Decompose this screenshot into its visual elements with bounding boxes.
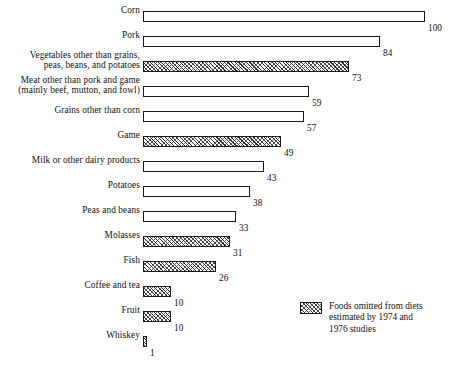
table-row: Pork 84 [0, 25, 455, 50]
bar-coffee-and-tea [143, 286, 171, 297]
bar-corn [143, 11, 425, 22]
bar-potatoes [143, 186, 250, 197]
bar-label: Milk or other dairy products [0, 155, 140, 165]
table-row: Vegetables other than grains, peas, bean… [0, 50, 455, 75]
legend-label: Foods omitted from diets estimated by 19… [329, 301, 449, 335]
bar-fish [143, 261, 216, 272]
bar-vegetables [143, 61, 349, 72]
bar-label: Fruit [0, 305, 140, 315]
table-row: Coffee and tea 10 [0, 275, 455, 300]
table-row: Grains other than corn 57 [0, 100, 455, 125]
bar-label: Game [0, 130, 140, 140]
bar-label: Molasses [0, 230, 140, 240]
bar-label: Meat other than pork and game (mainly be… [0, 75, 140, 96]
table-row: Game 49 [0, 125, 455, 150]
bar-grains [143, 111, 304, 122]
bar-label: Pork [0, 30, 140, 40]
bar-label: Vegetables other than grains, peas, bean… [0, 50, 140, 71]
bar-label: Corn [0, 5, 140, 15]
bar-whiskey [143, 336, 147, 347]
bar-fruit [143, 311, 171, 322]
bar-value-whiskey: 1 [150, 348, 155, 358]
table-row: Fish 26 [0, 250, 455, 275]
bar-label: Fish [0, 255, 140, 265]
table-row: Peas and beans 33 [0, 200, 455, 225]
table-row: Milk or other dairy products 43 [0, 150, 455, 175]
table-row: Corn 100 [0, 0, 455, 25]
bar-label: Coffee and tea [0, 280, 140, 290]
bar-milk [143, 161, 264, 172]
bar-meat [143, 86, 309, 97]
bar-label: Grains other than corn [0, 105, 140, 115]
table-row: Molasses 31 [0, 225, 455, 250]
bar-molasses [143, 236, 230, 247]
bar-label: Peas and beans [0, 205, 140, 215]
bar-peas-and-beans [143, 211, 236, 222]
bar-label: Potatoes [0, 180, 140, 190]
bar-label: Whiskey [0, 330, 140, 340]
table-row: Potatoes 38 [0, 175, 455, 200]
table-row: Meat other than pork and game (mainly be… [0, 75, 455, 100]
bar-pork [143, 36, 380, 47]
legend-swatch-hatched-icon [300, 302, 322, 314]
bar-game [143, 136, 281, 147]
bar-chart: Corn 100 Pork 84 Vegetables other than g… [0, 0, 455, 380]
